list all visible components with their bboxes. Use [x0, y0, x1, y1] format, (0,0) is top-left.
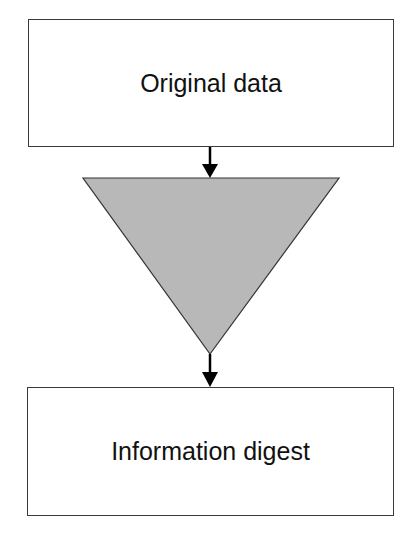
filter-triangle	[83, 178, 339, 354]
arrow-head-2	[202, 372, 218, 387]
original-data-label: Original data	[140, 69, 282, 98]
information-digest-label: Information digest	[111, 437, 310, 466]
original-data-box: Original data	[28, 19, 394, 147]
information-digest-box: Information digest	[27, 387, 394, 516]
arrow-head-1	[202, 164, 218, 178]
